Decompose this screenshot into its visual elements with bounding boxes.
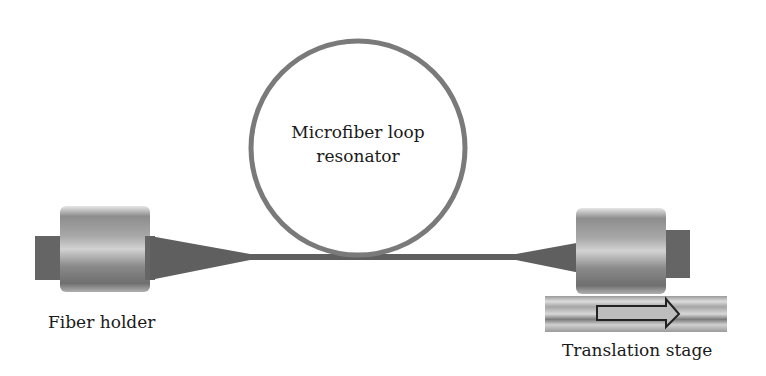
holder-cylinder-right bbox=[576, 208, 666, 294]
fiber-holder-label: Fiber holder bbox=[48, 312, 155, 332]
loop-label-line1: Microfiber loop bbox=[248, 120, 468, 144]
loop-label: Microfiber loop resonator bbox=[248, 120, 468, 168]
translation-stage bbox=[545, 296, 727, 332]
taper-left bbox=[150, 236, 250, 280]
loop-label-line2: resonator bbox=[248, 144, 468, 168]
translation-stage-label: Translation stage bbox=[562, 340, 712, 360]
holder-cylinder-left bbox=[60, 206, 150, 292]
fiber-holder-left bbox=[35, 206, 155, 292]
fiber-holder-right bbox=[576, 208, 690, 294]
fiber-waist bbox=[248, 254, 518, 260]
